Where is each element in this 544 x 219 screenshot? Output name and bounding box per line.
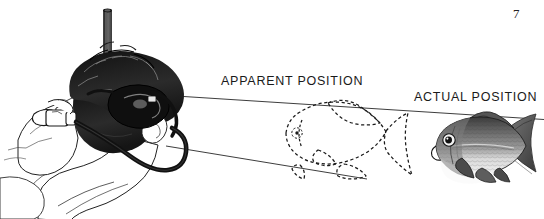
fish-outline-icon — [286, 100, 412, 179]
figure-illustration — [0, 0, 544, 219]
apparent-position-label: APPARENT POSITION — [221, 74, 363, 88]
diver-figure — [0, 42, 186, 219]
snorkel-mouthpiece-icon — [32, 99, 76, 126]
fish-icon — [432, 112, 537, 184]
actual-position-label: ACTUAL POSITION — [414, 90, 537, 104]
fish-outline-eye — [292, 128, 302, 138]
refraction-diagram-figure: APPARENT POSITION ACTUAL POSITION 7 — [0, 0, 544, 219]
page-number: 7 — [513, 6, 520, 22]
